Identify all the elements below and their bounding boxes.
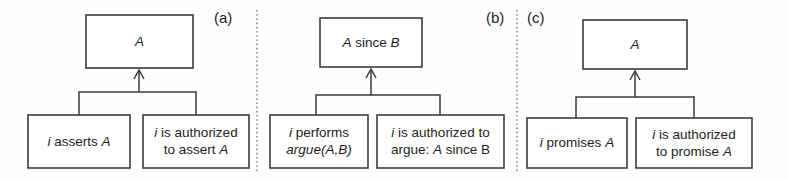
b-premise-right-label-line-1: i is authorized to	[391, 125, 489, 140]
a-premise-right-label-line-2: to assert A	[164, 142, 229, 157]
panel-label-b: (b)	[486, 9, 504, 26]
c-conclusion-label-line-1: A	[629, 36, 639, 51]
panel-label-a: (a)	[214, 9, 232, 26]
panel-a: Ai asserts Ai is authorizedto assert A(a…	[28, 9, 249, 168]
diagram-content: Ai asserts Ai is authorizedto assert A(a…	[28, 9, 752, 172]
b-premise-right: i is authorized toargue: A since B	[377, 115, 504, 168]
c-premise-left: i promises A	[527, 118, 627, 168]
panel-label-c: (c)	[527, 9, 545, 26]
figure-root: Ai asserts Ai is authorizedto assert A(a…	[0, 0, 788, 180]
c-premise-right-label-line-1: i is authorized	[652, 126, 735, 141]
support-bracket-c	[576, 97, 694, 118]
c-premise-left-label-line-1: i promises A	[540, 135, 614, 150]
c-conclusion: A	[583, 20, 687, 69]
argument-scheme-diagram: Ai asserts Ai is authorizedto assert A(a…	[0, 0, 788, 180]
a-conclusion-label-line-1: A	[134, 33, 144, 48]
b-premise-right-label-line-2: argue: A since B	[391, 142, 490, 157]
a-premise-right-label-line-1: i is authorized	[154, 125, 237, 140]
a-premise-left: i asserts A	[28, 115, 130, 168]
support-link-a	[79, 70, 196, 115]
c-premise-right-label-line-2: to promise A	[656, 143, 732, 158]
b-conclusion-label-line-1: A since B	[341, 34, 399, 49]
support-link-b	[316, 69, 440, 115]
support-bracket-a	[79, 92, 196, 115]
b-premise-left-label-line-1: i performs	[289, 125, 349, 140]
b-premise-left-label-line-2: argue(A,B)	[286, 142, 351, 157]
support-bracket-b	[316, 95, 440, 115]
support-link-c	[576, 71, 694, 118]
b-premise-left: i performsargue(A,B)	[270, 115, 368, 168]
panel-b: A since Bi performsargue(A,B)i is author…	[270, 9, 504, 168]
b-conclusion: A since B	[320, 18, 422, 67]
a-conclusion: A	[86, 15, 193, 68]
panel-c: Ai promises Ai is authorizedto promise A…	[527, 9, 752, 168]
c-premise-right: i is authorizedto promise A	[636, 118, 752, 168]
a-premise-right: i is authorizedto assert A	[143, 115, 249, 168]
a-premise-left-label-line-1: i asserts A	[47, 133, 110, 148]
